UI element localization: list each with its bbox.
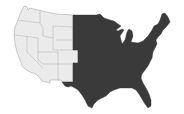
eastern-states-region xyxy=(62,13,170,108)
us-map xyxy=(0,0,184,114)
western-states-region xyxy=(14,6,78,83)
